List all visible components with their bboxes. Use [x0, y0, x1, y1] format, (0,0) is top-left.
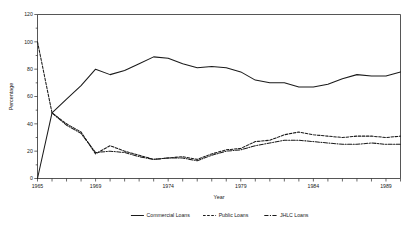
legend-label-jhlc-loans: JHLC Loans [280, 212, 309, 218]
x-tick-label: 1984 [308, 183, 320, 189]
x-axis-ticks: 196519691974197919841989 [32, 179, 401, 190]
y-tick-label: 120 [24, 11, 33, 17]
x-tick-label: 1974 [162, 183, 174, 189]
x-tick-label: 1989 [380, 183, 392, 189]
series-line-public-loans [38, 42, 401, 160]
plot-frame [38, 15, 401, 179]
y-tick-label: 100 [24, 39, 33, 45]
series-line-commercial-loans [38, 57, 401, 179]
x-tick-label: 1969 [90, 183, 102, 189]
chart-legend: Commercial LoansPublic LoansJHLC Loans [131, 212, 309, 218]
data-series-group [38, 42, 401, 179]
x-tick-label: 1979 [235, 183, 247, 189]
y-tick-label: 40 [27, 121, 33, 127]
y-axis-ticks: 020406080100120 [24, 11, 37, 181]
y-tick-label: 80 [27, 66, 33, 72]
y-axis-title: Percentage [8, 83, 14, 111]
x-axis-title: Year [214, 194, 225, 200]
y-tick-label: 0 [30, 175, 33, 181]
legend-label-commercial-loans: Commercial Loans [147, 212, 191, 218]
y-tick-label: 60 [27, 93, 33, 99]
x-tick-label: 1965 [32, 183, 44, 189]
chart-figure: 020406080100120 196519691974197919841989… [0, 0, 418, 235]
line-chart: 020406080100120 196519691974197919841989… [0, 0, 418, 235]
plot-border [38, 15, 401, 179]
legend-label-public-loans: Public Loans [219, 212, 249, 218]
y-tick-label: 20 [27, 148, 33, 154]
